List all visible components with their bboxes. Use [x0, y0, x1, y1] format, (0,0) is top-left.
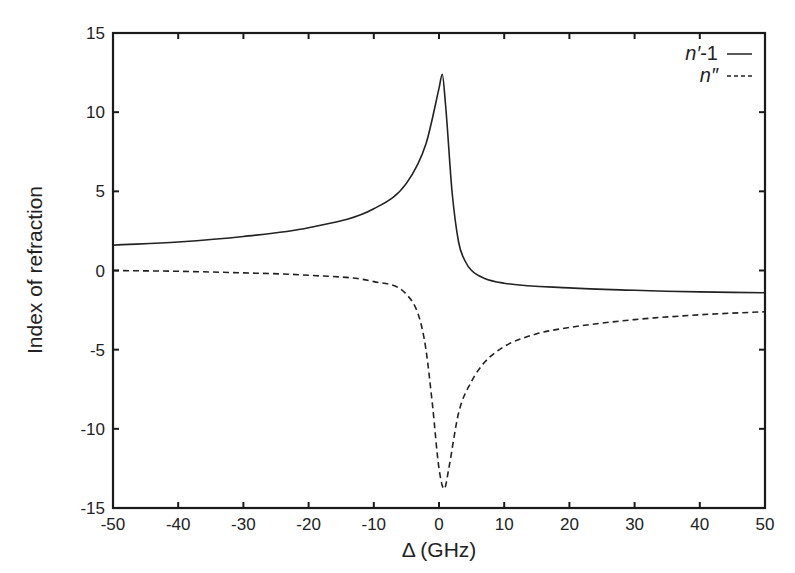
n-double-prime-curve [113, 271, 765, 490]
index-of-refraction-chart: -50-40-30-20-1001020304050-15-10-5051015… [0, 0, 795, 573]
y-tick-label: 15 [86, 24, 105, 43]
legend-label: n″ [700, 64, 719, 86]
x-tick-label: 30 [625, 515, 644, 534]
legend-label: n′-1 [685, 42, 718, 64]
x-tick-label: 20 [560, 515, 579, 534]
plot-area [113, 74, 765, 489]
y-tick-label: 10 [86, 103, 105, 122]
x-tick-label: 10 [495, 515, 514, 534]
x-tick-label: -30 [231, 515, 256, 534]
x-tick-label: -10 [362, 515, 387, 534]
y-axis-title: Index of refraction [23, 186, 46, 354]
axes: -50-40-30-20-1001020304050-15-10-5051015 [80, 24, 774, 534]
y-tick-label: -10 [80, 420, 105, 439]
x-tick-label: -40 [166, 515, 191, 534]
x-tick-label: 40 [690, 515, 709, 534]
x-tick-label: 50 [756, 515, 775, 534]
x-axis-title: Δ (GHz) [402, 538, 477, 561]
y-tick-label: 5 [96, 182, 105, 201]
plot-frame [113, 33, 765, 508]
legend: n′-1n″ [685, 42, 752, 86]
y-tick-label: 0 [96, 262, 105, 281]
y-tick-label: -5 [90, 341, 105, 360]
x-tick-label: -20 [296, 515, 321, 534]
y-tick-label: -15 [80, 499, 105, 518]
n-prime-minus-one-curve [113, 74, 765, 293]
x-tick-label: 0 [434, 515, 443, 534]
